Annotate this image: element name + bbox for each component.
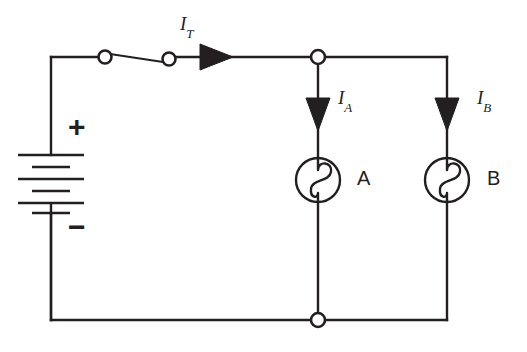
current-arrow-a-icon xyxy=(306,98,330,131)
lamp-a-symbol xyxy=(296,158,340,202)
junction-node-top xyxy=(311,50,325,64)
switch-terminal-right[interactable] xyxy=(163,53,176,66)
current-subscript-b: B xyxy=(483,100,491,115)
current-label-b: IB xyxy=(477,88,491,111)
current-subscript-a: A xyxy=(344,100,352,115)
lamp-b-symbol xyxy=(425,158,469,202)
current-subscript-total: T xyxy=(186,26,193,41)
switch-blade[interactable] xyxy=(110,54,163,62)
lamp-a-label: A xyxy=(357,168,370,188)
battery-polarity-minus: − xyxy=(68,212,86,242)
switch-terminal-left[interactable] xyxy=(99,51,112,64)
current-arrow-b-icon xyxy=(435,98,459,131)
circuit-schematic xyxy=(0,0,527,352)
current-label-total: IT xyxy=(180,14,194,37)
junction-node-bottom xyxy=(311,313,325,327)
circuit-diagram-canvas: + − IT IA IB A B xyxy=(0,0,527,352)
switch-symbol[interactable] xyxy=(99,51,176,66)
current-arrow-total-icon xyxy=(200,44,233,70)
lamp-b-label: B xyxy=(487,168,500,188)
current-label-a: IA xyxy=(338,88,352,111)
battery-polarity-plus: + xyxy=(68,112,86,142)
